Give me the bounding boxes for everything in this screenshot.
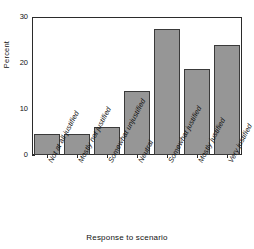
y-tick-label: 10: [6, 105, 28, 113]
y-tick-label: 0: [6, 151, 28, 159]
bar: [154, 29, 180, 156]
x-axis-title: Response to scenario: [0, 233, 254, 242]
y-tick-label: 20: [6, 59, 28, 67]
y-tick-label: 30: [6, 13, 28, 21]
y-tick-mark: [32, 155, 35, 156]
chart-figure: Percent 0102030 Not at all justifiedMost…: [0, 0, 254, 249]
